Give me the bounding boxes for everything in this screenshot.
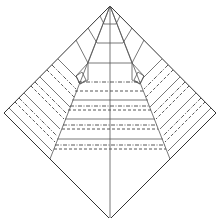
left-inner-fan xyxy=(88,6,110,63)
right-inner-fan xyxy=(110,6,132,63)
crease-pattern-diagram xyxy=(0,0,223,218)
